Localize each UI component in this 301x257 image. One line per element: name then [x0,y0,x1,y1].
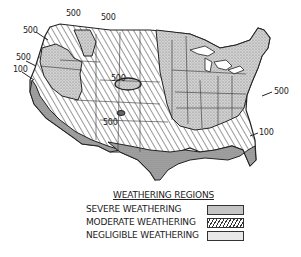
contour-label: 500 [16,52,31,62]
contour-label: 100 [13,64,28,74]
contour-label: 500 [103,117,118,127]
moderate-swatch-icon [207,218,244,228]
contour-label: 500 [23,25,38,35]
legend-item-severe: SEVERE WEATHERING [86,204,181,214]
contour-label: 500 [66,8,81,18]
contour-label: 100 [259,127,274,137]
contour-label: 500 [111,73,126,83]
negligible-swatch-icon [207,231,244,241]
severe-swatch-icon [207,205,244,215]
severe-region-east [156,28,270,130]
legend-item-moderate: MODERATE WEATHERING [86,217,196,227]
contour-label: 500 [274,86,289,96]
legend-title: WEATHERING REGIONS [113,190,214,200]
legend-item-negligible: NEGLIGIBLE WEATHERING [86,230,199,240]
contour-label: 500 [101,12,116,22]
